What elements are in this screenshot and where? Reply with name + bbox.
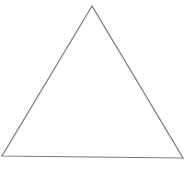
speck-mark	[47, 147, 48, 148]
diagram-canvas	[0, 0, 189, 171]
triangle-figure	[0, 0, 189, 171]
triangle-shape	[2, 6, 183, 158]
